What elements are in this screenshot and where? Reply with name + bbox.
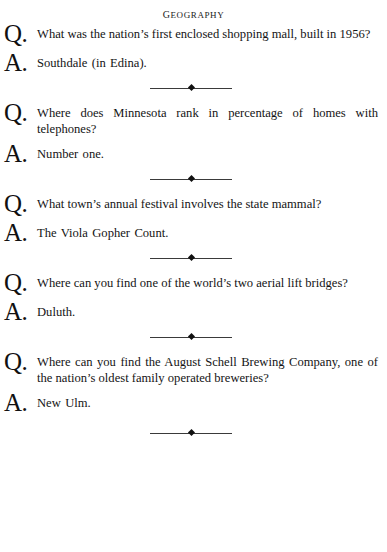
separator-wrap (4, 414, 378, 437)
separator-wrap (4, 165, 378, 191)
answer-marker: A. (4, 299, 37, 324)
answer-marker: A. (4, 220, 37, 245)
diamond-rule-ornament-icon (4, 174, 378, 183)
question-marker: Q. (4, 349, 37, 374)
answer-text: Duluth. (37, 298, 378, 321)
diamond-rule-ornament-icon (4, 428, 378, 437)
answer-text: Southdale (in Edina). (37, 49, 378, 72)
separator-wrap (4, 244, 378, 270)
qa-block: Q. What town’s annual festival involves … (4, 191, 378, 244)
question-text: What was the nation’s first enclosed sho… (37, 21, 378, 43)
question-row: Q. What town’s annual festival involves … (4, 191, 378, 216)
document-page: Geography Q. What was the nation’s first… (0, 0, 387, 552)
answer-row: A. Southdale (in Edina). (4, 49, 378, 74)
answer-row: A. Number one. (4, 140, 378, 165)
answer-text: New Ulm. (37, 389, 378, 412)
question-marker: Q. (4, 191, 37, 216)
separator-wrap (4, 323, 378, 349)
question-marker: Q. (4, 100, 37, 125)
diamond-rule-ornament-icon (4, 253, 378, 262)
qa-block: Q. Where can you find one of the world’s… (4, 270, 378, 323)
answer-row: A. Duluth. (4, 298, 378, 323)
question-text: Where does Minnesota rank in percentage … (37, 100, 378, 137)
diamond-rule-ornament-icon (4, 83, 378, 92)
question-text: What town’s annual festival involves the… (37, 191, 378, 213)
answer-marker: A. (4, 390, 37, 415)
page-title: Geography (0, 0, 387, 21)
question-text: Where can you find the August Schell Bre… (37, 349, 378, 386)
qa-block: Q. Where does Minnesota rank in percenta… (4, 100, 378, 165)
diamond-rule-ornament-icon (4, 332, 378, 341)
question-row: Q. Where does Minnesota rank in percenta… (4, 100, 378, 137)
answer-text: Number one. (37, 140, 378, 163)
question-text: Where can you find one of the world’s tw… (37, 270, 378, 292)
separator-wrap (4, 74, 378, 100)
answer-text: The Viola Gopher Count. (37, 219, 378, 242)
answer-marker: A. (4, 141, 37, 166)
qa-block: Q. Where can you find the August Schell … (4, 349, 378, 414)
answer-row: A. The Viola Gopher Count. (4, 219, 378, 244)
question-marker: Q. (4, 270, 37, 295)
answer-row: A. New Ulm. (4, 389, 378, 414)
qa-block: Q. What was the nation’s first enclosed … (4, 21, 378, 74)
question-marker: Q. (4, 21, 37, 46)
qa-list: Q. What was the nation’s first enclosed … (0, 21, 387, 437)
question-row: Q. Where can you find the August Schell … (4, 349, 378, 386)
answer-marker: A. (4, 50, 37, 75)
question-row: Q. What was the nation’s first enclosed … (4, 21, 378, 46)
question-row: Q. Where can you find one of the world’s… (4, 270, 378, 295)
